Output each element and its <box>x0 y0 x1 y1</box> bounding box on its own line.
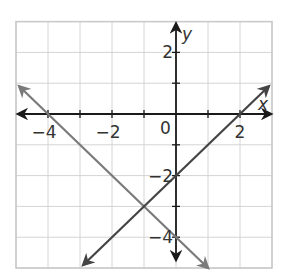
x-tick-label: −2 <box>95 122 120 142</box>
grid-lines <box>16 22 272 268</box>
x-tick-label: 2 <box>235 122 246 142</box>
y-axis-label: y <box>181 24 193 44</box>
y-tick-label: −2 <box>148 166 173 186</box>
origin-label: 0 <box>160 118 171 138</box>
x-axis-label: x <box>257 94 269 114</box>
x-tick-label: −4 <box>31 122 56 142</box>
y-tick-label: 2 <box>162 42 173 62</box>
coordinate-plane: −4−22 2−2−4 0 x y <box>0 0 283 278</box>
y-tick-label: −4 <box>148 227 173 247</box>
